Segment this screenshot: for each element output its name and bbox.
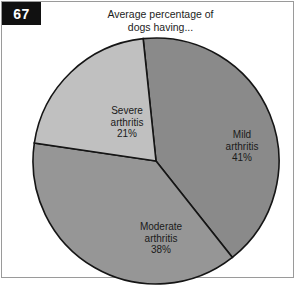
pie-slice-label-moderate: Moderate arthritis 38% bbox=[126, 221, 196, 256]
pie-slice-label-moderate-line1: Moderate bbox=[126, 221, 196, 233]
pie-slice-label-severe-line1: Severe bbox=[96, 105, 158, 117]
pie-slice-value-severe: 21% bbox=[96, 128, 158, 140]
pie-chart: Mild arthritis 41% Severe arthritis 21% … bbox=[30, 35, 282, 287]
figure-page: 67 Average percentage of dogs having... … bbox=[0, 0, 303, 296]
pie-slice-label-mild: Mild arthritis 41% bbox=[211, 129, 273, 164]
pie-slice-label-severe-line2: arthritis bbox=[96, 117, 158, 129]
pie-slice-label-mild-line1: Mild bbox=[211, 129, 273, 141]
chart-title-line-2: dogs having... bbox=[88, 21, 233, 34]
pie-slice-value-moderate: 38% bbox=[126, 244, 196, 256]
pie-slice-severe bbox=[34, 39, 156, 161]
figure-number-badge: 67 bbox=[2, 2, 41, 25]
pie-slice-label-severe: Severe arthritis 21% bbox=[96, 105, 158, 140]
chart-title-line-1: Average percentage of bbox=[88, 8, 233, 21]
pie-slice-label-mild-line2: arthritis bbox=[211, 141, 273, 153]
pie-slice-value-mild: 41% bbox=[211, 152, 273, 164]
chart-title: Average percentage of dogs having... bbox=[88, 8, 233, 33]
pie-slice-label-moderate-line2: arthritis bbox=[126, 233, 196, 245]
